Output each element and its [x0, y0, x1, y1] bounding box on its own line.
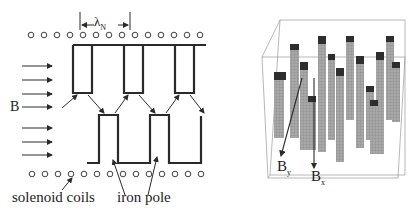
bx-label: Bx — [311, 168, 325, 187]
wavelength-label: λN — [94, 14, 106, 32]
field-label: B — [10, 99, 19, 115]
lambda-subscript: N — [100, 23, 106, 32]
bx-symbol: B — [311, 168, 321, 184]
by-subscript: y — [287, 168, 291, 177]
top-iron-poles — [73, 45, 206, 93]
flux-arrows — [62, 95, 204, 113]
figure-canvas — [0, 0, 419, 217]
field-arrows — [22, 66, 52, 155]
bottom-solenoid-coils — [29, 171, 204, 177]
field-bars-3d — [274, 36, 400, 162]
pole-label: iron pole — [117, 189, 171, 206]
top-solenoid-coils — [28, 32, 203, 38]
bx-subscript: x — [321, 178, 325, 187]
by-symbol: B — [277, 158, 287, 174]
coil-label: solenoid coils — [12, 189, 95, 206]
bottom-iron-poles — [87, 115, 201, 163]
by-label: By — [277, 158, 291, 177]
